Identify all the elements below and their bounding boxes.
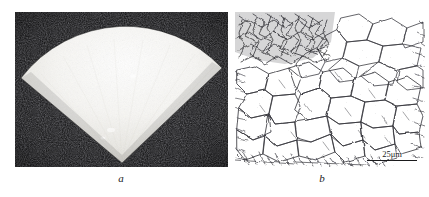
panel-a-micrograph-image [15, 12, 228, 167]
scale-bar-label: 25μm [367, 149, 417, 159]
panel-b-caption: b [302, 172, 342, 184]
scale-bar-rule [367, 160, 417, 161]
panel-a [15, 12, 228, 167]
panel-b: 25μm [235, 12, 425, 167]
panel-b-micrograph-image [235, 12, 425, 167]
panel-a-caption: a [101, 172, 141, 184]
figure-root: a [0, 0, 429, 197]
scale-bar: 25μm [367, 149, 417, 161]
